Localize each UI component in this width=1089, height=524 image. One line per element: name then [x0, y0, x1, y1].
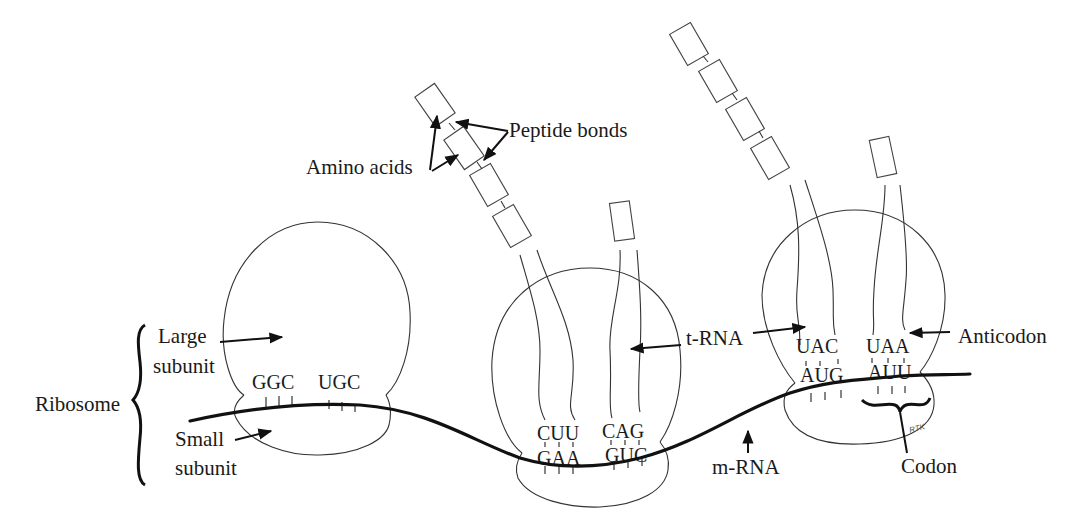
codon-label: Codon [901, 454, 958, 478]
ribosome-2: CUU CAG GAA GUC [492, 201, 681, 507]
amino-acid [869, 136, 896, 177]
peptide-chain-1 [415, 83, 532, 247]
amino-acid-arrow [432, 155, 458, 171]
ribosome-diagram: GGC UGC CUU CAG GAA GUC [0, 0, 1089, 524]
base-ugc: UGC [318, 371, 360, 393]
small-subunit-label-1: Small [175, 427, 224, 451]
trna-strand [637, 250, 641, 412]
trna-strand [790, 185, 800, 345]
ribosome-3: UAC UAA AUG AUU RTK [762, 136, 945, 453]
base-ggc: GGC [252, 371, 294, 393]
trna-strand [873, 185, 885, 335]
signature: RTK [908, 422, 926, 435]
amino-acid [726, 97, 765, 140]
trna-strand [610, 250, 620, 418]
anticodon-cag: CAG [602, 420, 644, 442]
small-subunit-label-2: subunit [175, 456, 237, 480]
amino-acids-label: Amino acids [306, 155, 413, 179]
peptide-chain-2 [670, 22, 790, 179]
codon-brace [862, 398, 930, 412]
large-subunit-3 [762, 210, 945, 383]
anticodon-cuu: CUU [537, 422, 580, 444]
ribosome-brace [133, 325, 145, 485]
mrna-label: m-RNA [712, 455, 781, 479]
ribosome-label: Ribosome [35, 392, 120, 416]
trna-arrow-left [631, 345, 681, 349]
large-subunit-1 [223, 222, 410, 395]
peptide-bonds-label: Peptide bonds [509, 118, 627, 142]
amino-acid [609, 201, 634, 241]
trna-strand [805, 180, 835, 335]
large-subunit-label-1: Large [158, 324, 207, 348]
trna-arrow-right [753, 327, 805, 333]
large-subunit-2 [492, 268, 681, 453]
amino-acid [415, 83, 455, 126]
peptide-bond-arrow [484, 132, 508, 160]
trna-strand [900, 185, 907, 330]
anticodon-label: Anticodon [958, 324, 1047, 348]
small-subunit-arrow [235, 431, 271, 440]
trna-strand [537, 250, 575, 420]
amino-acid [699, 59, 738, 102]
large-subunit-arrow [220, 337, 282, 342]
codon-pointer [900, 412, 907, 453]
amino-acid [670, 22, 709, 65]
large-subunit-label-2: subunit [153, 354, 215, 378]
amino-acid [470, 163, 509, 206]
anticodon-uaa: UAA [866, 335, 910, 357]
anticodon-uac: UAC [796, 335, 838, 357]
amino-acid [751, 136, 790, 179]
anticodon-arrow [910, 332, 950, 333]
amino-acid [493, 204, 532, 247]
trna-label: t-RNA [686, 326, 744, 350]
